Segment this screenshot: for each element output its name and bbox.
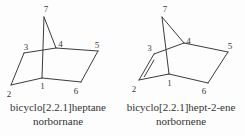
diagram-canvas: 7 3 4 5 2 1 6 7 3 4 5 2 1 6: [0, 0, 245, 136]
norbornene-atom-label-4: 4: [186, 36, 191, 46]
norbornene-bond-c3-c2-outer: [139, 54, 154, 80]
norbornane-atom-label-4: 4: [58, 39, 63, 49]
norbornane-atom-label-7: 7: [44, 4, 49, 14]
norbornane-structure: 7 3 4 5 2 1 6: [7, 4, 100, 99]
norbornene-common-name: norbornene: [122, 115, 240, 129]
norbornene-atom-label-6: 6: [202, 86, 207, 96]
norbornene-atom-label-3: 3: [147, 43, 152, 53]
norbornene-structure: 7 3 4 5 2 1 6: [132, 4, 233, 96]
norbornane-bond-c4-c3: [24, 48, 56, 53]
norbornene-bond-c1-c6: [169, 74, 208, 83]
norbornane-atom-label-2: 2: [7, 89, 12, 99]
norbornene-atom-label-1: 1: [167, 78, 172, 88]
norbornane-iupac-name: bicyclo[2.2.1]heptane: [2, 101, 114, 115]
norbornane-bond-c3-c2: [11, 53, 24, 85]
norbornene-bond-c4-c3: [154, 43, 184, 54]
norbornene-caption: bicyclo[2.2.1]hept-2-ene norbornene: [122, 101, 240, 128]
norbornane-atom-label-5: 5: [95, 40, 100, 50]
norbornane-bond-c7-c4: [44, 17, 56, 48]
norbornane-atom-label-6: 6: [74, 86, 79, 96]
norbornane-bond-c7-c1: [42, 17, 44, 78]
norbornene-atom-label-7: 7: [163, 4, 168, 14]
norbornene-iupac-name: bicyclo[2.2.1]hept-2-ene: [122, 101, 240, 115]
norbornene-atom-label-5: 5: [228, 41, 233, 51]
norbornene-bond-c6-c5: [208, 52, 228, 83]
norbornene-bond-c7-c4: [162, 17, 184, 43]
norbornane-bond-c6-c5: [81, 51, 98, 82]
norbornane-atom-label-1: 1: [40, 81, 45, 91]
norbornene-atom-label-2: 2: [132, 84, 137, 94]
norbornane-bond-c1-c6: [42, 78, 81, 82]
norbornene-bond-c7-c1: [162, 17, 169, 74]
norbornane-caption: bicyclo[2.2.1]heptane norbornane: [2, 101, 114, 128]
norbornane-atom-label-3: 3: [24, 42, 29, 52]
norbornane-bond-c2-c1: [11, 78, 42, 85]
norbornane-common-name: norbornane: [2, 115, 114, 129]
norbornene-bond-c2-c1: [139, 74, 169, 80]
